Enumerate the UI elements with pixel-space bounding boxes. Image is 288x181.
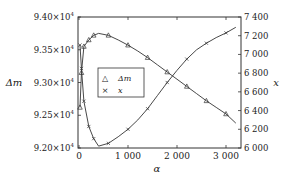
legend-label-x: x bbox=[118, 86, 123, 95]
left-y-axis-label: Δm bbox=[5, 77, 23, 88]
right-y-axis-ticks: 6 0006 2006 4006 6006 8007 0007 2007 400 bbox=[238, 12, 268, 153]
legend-label-delta-m: Δm bbox=[117, 74, 132, 83]
y-right-tick-label: 6 600 bbox=[244, 87, 268, 97]
y-left-tick-label: 9.20×104 bbox=[34, 142, 75, 153]
legend: △ Δm × x bbox=[98, 68, 144, 97]
y-right-tick-label: 6 000 bbox=[244, 143, 268, 153]
x-tick-label: 1 000 bbox=[115, 151, 141, 161]
legend-marker-x: × bbox=[102, 86, 109, 95]
y-right-tick-label: 7 200 bbox=[244, 31, 268, 41]
y-right-tick-label: 6 400 bbox=[244, 106, 268, 116]
y-right-tick-label: 7 000 bbox=[244, 49, 268, 59]
y-left-tick-label: 9.35×104 bbox=[34, 44, 75, 55]
y-right-tick-label: 6 200 bbox=[244, 124, 268, 134]
y-right-tick-label: 7 400 bbox=[244, 12, 268, 22]
y-left-tick-label: 9.25×104 bbox=[34, 109, 75, 120]
y-right-tick-label: 6 800 bbox=[244, 68, 268, 78]
y-left-tick-label: 9.40×104 bbox=[34, 11, 75, 22]
chart: 01 0002 0003 000 9.20×1049.25×1049.30×10… bbox=[0, 0, 288, 181]
x-tick-label: 0 bbox=[76, 151, 82, 161]
x-tick-label: 2 000 bbox=[164, 151, 190, 161]
legend-marker-triangle: △ bbox=[102, 74, 109, 83]
left-y-axis-ticks: 9.20×1049.25×1049.30×1049.35×1049.40×104 bbox=[34, 11, 81, 153]
x-axis-label: α bbox=[154, 163, 161, 174]
y-left-tick-label: 9.30×104 bbox=[34, 77, 75, 88]
right-y-axis-label: x bbox=[273, 77, 279, 88]
x-tick-label: 3 000 bbox=[213, 151, 239, 161]
